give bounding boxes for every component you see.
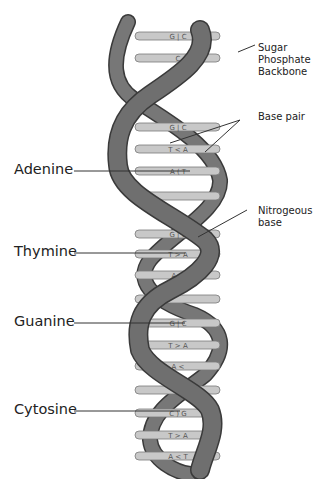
base-pair-letters: T < A xyxy=(167,146,188,154)
nitrogenous-line-2: base xyxy=(258,217,312,229)
label-cytosine: Cytosine xyxy=(14,401,77,417)
base-pair-letters: T > A xyxy=(167,342,188,350)
backbone-line-1: Sugar xyxy=(258,42,311,54)
label-guanine: Guanine xyxy=(14,313,75,329)
label-adenine: Adenine xyxy=(14,161,73,177)
dna-diagram: G | CCG | CT < AA ( TG | CT > AA <G | CT… xyxy=(0,0,328,479)
base-pair-letters: A < T xyxy=(168,453,188,461)
label-sugar-phosphate-backbone: Sugar Phosphate Backbone xyxy=(258,42,311,78)
nitrogenous-line-1: Nitrogeous xyxy=(258,205,312,217)
base-pair-letters: A ( T xyxy=(170,168,187,176)
base-pair-letters: G | C xyxy=(169,320,186,328)
label-base-pair: Base pair xyxy=(258,111,305,123)
backbone-line-3: Backbone xyxy=(258,66,311,78)
base-pair-letters: T > A xyxy=(167,251,188,259)
base-pair-letters: G | C xyxy=(169,33,186,41)
base-pair-letters: G | C xyxy=(169,124,186,132)
label-nitrogenous-base: Nitrogeous base xyxy=(258,205,312,229)
label-thymine: Thymine xyxy=(14,243,77,259)
backbone-line-2: Phosphate xyxy=(258,54,311,66)
base-pair-letters: T > A xyxy=(167,432,188,440)
leader-lines xyxy=(74,45,255,411)
